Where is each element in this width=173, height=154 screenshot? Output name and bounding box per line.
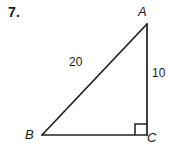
vertex-label-b: B [25,127,34,142]
vertex-label-a: A [138,4,147,19]
figure-canvas: 7. A B C 20 10 [0,0,173,154]
side-length-label-ab: 20 [69,55,82,69]
right-angle-marker-icon [135,124,147,135]
side-ab-line [42,24,147,135]
side-length-label-ac: 10 [152,66,165,80]
vertex-label-c: C [147,130,156,145]
